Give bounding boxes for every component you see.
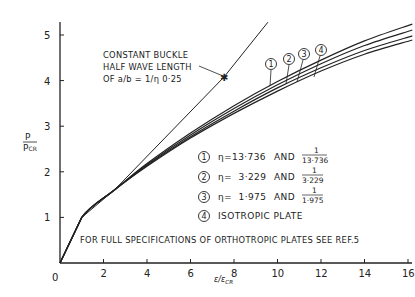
svg-text:3·229: 3·229 xyxy=(302,176,324,185)
svg-text:AND: AND xyxy=(274,152,295,162)
series-markers: 1 2 3 4 xyxy=(266,45,327,87)
x-tick-label: 10 xyxy=(272,268,285,279)
svg-text:1: 1 xyxy=(269,60,274,69)
star-marker-icon: ✱ xyxy=(220,72,228,83)
y-tick-label: 5 xyxy=(44,30,50,41)
ylabel-denominator: PCR xyxy=(23,143,37,153)
svg-text:AND: AND xyxy=(274,192,295,202)
svg-text:3: 3 xyxy=(202,193,207,202)
svg-text:2: 2 xyxy=(202,173,207,182)
svg-text:1: 1 xyxy=(202,153,207,162)
x-tick-label: 2 xyxy=(101,268,107,279)
annotation-constant-buckle: CONSTANT BUCKLE HALF WAVE LENGTH OF a/b … xyxy=(103,50,223,84)
footnote: FOR FULL SPECIFICATIONS OF ORTHOTROPIC P… xyxy=(80,235,359,245)
x-tick-label: 14 xyxy=(359,268,372,279)
y-tick-label: 2 xyxy=(44,167,50,178)
x-tick-label: 16 xyxy=(402,268,415,279)
chart: 012345 246810121416 P PCR ε/εCR ✱ CONSTA… xyxy=(0,0,415,297)
y-axis-label: P PCR xyxy=(23,132,37,153)
svg-text:13·736: 13·736 xyxy=(302,156,328,165)
svg-text:1: 1 xyxy=(312,166,317,175)
svg-text:2: 2 xyxy=(287,55,292,64)
svg-text:η= 3·229: η= 3·229 xyxy=(218,172,266,182)
y-tick-label: 4 xyxy=(44,76,50,87)
svg-text:1·975: 1·975 xyxy=(302,196,324,205)
svg-text:1: 1 xyxy=(312,186,317,195)
legend-item-4: 4 ISOTROPIC PLATE xyxy=(199,211,303,222)
x-tick-label: 8 xyxy=(231,268,237,279)
svg-text:η=13·736: η=13·736 xyxy=(218,152,266,162)
x-ticks: 246810121416 xyxy=(101,259,415,279)
svg-text:4: 4 xyxy=(202,212,207,221)
legend-item-2: 2 η= 3·229 AND 1 3·229 xyxy=(199,166,324,185)
legend: 1 η=13·736 AND 1 13·736 2 η= 3·229 AND 1… xyxy=(199,146,329,222)
annotation-leader-line xyxy=(199,66,223,76)
y-tick-label: 1 xyxy=(44,212,50,223)
svg-text:OF a/b = 1/η 0·25: OF a/b = 1/η 0·25 xyxy=(103,74,182,84)
marker-1: 1 xyxy=(266,59,277,87)
x-tick-label: 4 xyxy=(144,268,150,279)
legend-item-1: 1 η=13·736 AND 1 13·736 xyxy=(199,146,329,165)
svg-text:HALF WAVE LENGTH: HALF WAVE LENGTH xyxy=(103,62,192,72)
svg-text:AND: AND xyxy=(274,172,295,182)
y-tick-label: 0 xyxy=(52,272,58,283)
y-ticks: 012345 xyxy=(44,30,64,283)
svg-text:4: 4 xyxy=(319,46,324,55)
ylabel-numerator: P xyxy=(25,132,31,142)
x-tick-label: 6 xyxy=(188,268,194,279)
y-tick-label: 3 xyxy=(44,121,50,132)
svg-text:3: 3 xyxy=(302,50,307,59)
svg-text:η= 1·975: η= 1·975 xyxy=(218,192,266,202)
svg-text:ISOTROPIC PLATE: ISOTROPIC PLATE xyxy=(218,211,303,221)
legend-item-3: 3 η= 1·975 AND 1 1·975 xyxy=(199,186,324,205)
svg-text:1: 1 xyxy=(314,146,319,155)
x-tick-label: 12 xyxy=(315,268,328,279)
svg-text:CONSTANT BUCKLE: CONSTANT BUCKLE xyxy=(103,50,188,60)
